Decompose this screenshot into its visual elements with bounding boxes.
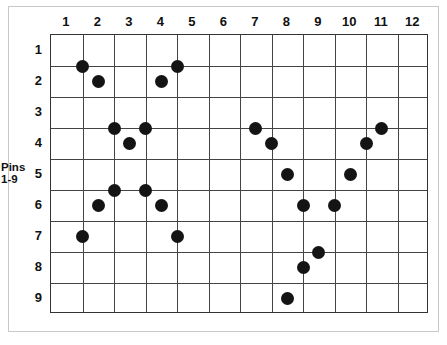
- data-point: [108, 122, 121, 135]
- y-axis-tick-label: 8: [24, 259, 42, 275]
- grid-hline: [51, 283, 427, 284]
- y-axis-tick-label: 1: [24, 42, 42, 58]
- data-point: [139, 184, 152, 197]
- data-point: [375, 122, 388, 135]
- x-axis-tick-label: 3: [114, 14, 144, 29]
- data-point: [171, 60, 184, 73]
- plot-area: [50, 34, 428, 313]
- data-point: [281, 292, 294, 305]
- data-point: [281, 168, 294, 181]
- y-axis-tick-label: 6: [24, 197, 42, 213]
- x-axis-tick-label: 11: [366, 14, 396, 29]
- data-point: [297, 199, 310, 212]
- x-axis-tick-label: 12: [397, 14, 427, 29]
- grid-hline: [51, 221, 427, 222]
- data-point: [108, 184, 121, 197]
- x-axis-tick-label: 9: [303, 14, 333, 29]
- pin-pattern-figure: Pins 1-9 123456789101112 123456789: [0, 0, 447, 345]
- y-axis-tick-label: 5: [24, 166, 42, 182]
- grid-vline: [209, 35, 210, 312]
- x-axis-tick-label: 4: [145, 14, 175, 29]
- grid-vline: [146, 35, 147, 312]
- y-axis-tick-label: 9: [24, 290, 42, 306]
- data-point: [344, 168, 357, 181]
- data-point: [360, 137, 373, 150]
- data-point: [249, 122, 262, 135]
- y-axis-tick-label: 2: [24, 73, 42, 89]
- x-axis-tick-label: 1: [51, 14, 81, 29]
- y-axis-tick-label: 4: [24, 135, 42, 151]
- data-point: [155, 75, 168, 88]
- x-axis-tick-label: 6: [208, 14, 238, 29]
- data-point: [92, 199, 105, 212]
- x-axis-tick-label: 7: [240, 14, 270, 29]
- x-axis-tick-label: 2: [82, 14, 112, 29]
- y-axis-tick-label: 3: [24, 104, 42, 120]
- grid-vline: [83, 35, 84, 312]
- data-point: [312, 246, 325, 259]
- grid-vline: [114, 35, 115, 312]
- data-point: [76, 60, 89, 73]
- data-point: [155, 199, 168, 212]
- grid-vline: [335, 35, 336, 312]
- data-point: [297, 261, 310, 274]
- grid-vline: [398, 35, 399, 312]
- grid-hline: [51, 159, 427, 160]
- x-axis-tick-label: 8: [271, 14, 301, 29]
- grid-hline: [51, 252, 427, 253]
- grid-vline: [272, 35, 273, 312]
- x-axis-tick-label: 5: [177, 14, 207, 29]
- grid-vline: [177, 35, 178, 312]
- data-point: [265, 137, 278, 150]
- grid-vline: [366, 35, 367, 312]
- grid-vline: [240, 35, 241, 312]
- grid-hline: [51, 97, 427, 98]
- x-axis-tick-label: 10: [334, 14, 364, 29]
- data-point: [123, 137, 136, 150]
- grid-hline: [51, 66, 427, 67]
- data-point: [328, 199, 341, 212]
- data-point: [171, 230, 184, 243]
- y-axis-tick-label: 7: [24, 228, 42, 244]
- data-point: [76, 230, 89, 243]
- data-point: [139, 122, 152, 135]
- data-point: [92, 75, 105, 88]
